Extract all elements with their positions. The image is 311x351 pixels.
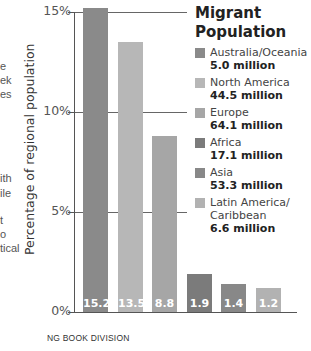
legend-migrant-count: 53.3 million [210, 179, 311, 192]
page-text-fragment: es [0, 89, 12, 100]
legend-swatch [195, 48, 205, 58]
source-credit: NG BOOK DIVISION [47, 333, 130, 343]
page-text-fragment: o [0, 229, 6, 240]
legend-item: Latin America/ Caribbean6.6 million [195, 196, 311, 235]
y-axis-label: Percentage of regional population [22, 55, 38, 255]
bar-australia-oceania: 15.2 [83, 8, 108, 312]
page-text-fragment: ile [0, 188, 11, 199]
x-axis-line [75, 312, 297, 313]
page-text-fragment: e [0, 61, 6, 72]
legend-item: North America44.5 million [195, 76, 311, 102]
legend-swatch [195, 138, 205, 148]
bar-value-label: 13.5 [118, 298, 143, 309]
legend-region-name: Latin America/ Caribbean [210, 196, 311, 222]
bar-north-america: 13.5 [118, 42, 143, 312]
bar-asia: 1.4 [221, 284, 246, 312]
bar-value-label: 1.4 [221, 298, 246, 309]
y-tick-label-5: 5% [51, 205, 71, 218]
bar-value-label: 1.9 [187, 298, 212, 309]
legend-region-name: Australia/Oceania [210, 46, 311, 59]
legend-item: Australia/Oceania5.0 million [195, 46, 311, 72]
bar-europe: 8.8 [152, 136, 177, 312]
legend: Migrant Population Australia/Oceania5.0 … [195, 4, 311, 235]
legend-title: Migrant Population [195, 4, 311, 42]
legend-swatch [195, 78, 205, 88]
legend-item: Africa17.1 million [195, 136, 311, 162]
y-tick-label-0: 0% [51, 305, 71, 318]
legend-region-name: Asia [210, 166, 311, 179]
bar-value-label: 8.8 [152, 298, 177, 309]
bar-value-label: 1.2 [256, 298, 281, 309]
legend-region-name: Africa [210, 136, 311, 149]
legend-migrant-count: 6.6 million [210, 222, 311, 235]
legend-migrant-count: 5.0 million [210, 59, 311, 72]
legend-migrant-count: 17.1 million [210, 149, 311, 162]
legend-item: Europe64.1 million [195, 106, 311, 132]
y-tick-label-15: 15% [43, 5, 71, 18]
legend-migrant-count: 44.5 million [210, 89, 311, 102]
page-text-fragment: t [0, 215, 3, 226]
legend-item: Asia53.3 million [195, 166, 311, 192]
bar-africa: 1.9 [187, 274, 212, 312]
page-text-fragment: ek [0, 75, 12, 86]
y-axis-line [74, 12, 75, 313]
bar-latin-america-caribbean: 1.2 [256, 288, 281, 312]
y-tick-label-10: 10% [43, 105, 71, 118]
legend-swatch [195, 108, 205, 118]
page-text-fragment: ith [0, 173, 12, 184]
page-text-fragment: tical [0, 243, 20, 254]
legend-region-name: Europe [210, 106, 311, 119]
legend-swatch [195, 198, 205, 208]
legend-swatch [195, 168, 205, 178]
legend-region-name: North America [210, 76, 311, 89]
legend-migrant-count: 64.1 million [210, 119, 311, 132]
bar-value-label: 15.2 [83, 298, 108, 309]
